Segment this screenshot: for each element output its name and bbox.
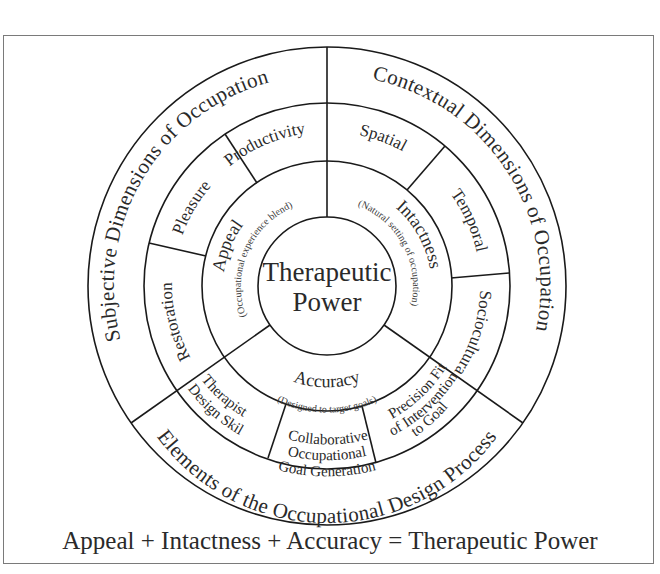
center-label-line2: Power <box>293 287 362 317</box>
therapeutic-power-diagram: Therapeutic Power Subjective Dimensions … <box>0 0 660 574</box>
middle-label-collaborative-line1: Collaborative <box>287 427 370 448</box>
inner-label-accuracy: Accuracy <box>292 366 362 391</box>
middle-label-restoration: Restoration <box>157 282 194 365</box>
middle-label-productivity: Productivity <box>220 118 307 169</box>
divider-spatial-temporal <box>407 146 445 190</box>
divider-temporal-sociocultural <box>451 273 509 278</box>
divider-pleasure-restoration <box>149 243 206 256</box>
middle-label-temporal: Temporal <box>447 185 491 254</box>
divider-therapist-collaborative <box>268 404 286 458</box>
equation-caption: Appeal + Intactness + Accuracy = Therape… <box>0 527 660 555</box>
center-label-line1: Therapeutic <box>263 257 392 287</box>
middle-label-spatial: Spatial <box>358 120 410 155</box>
middle-label-pleasure: Pleasure <box>168 176 214 237</box>
